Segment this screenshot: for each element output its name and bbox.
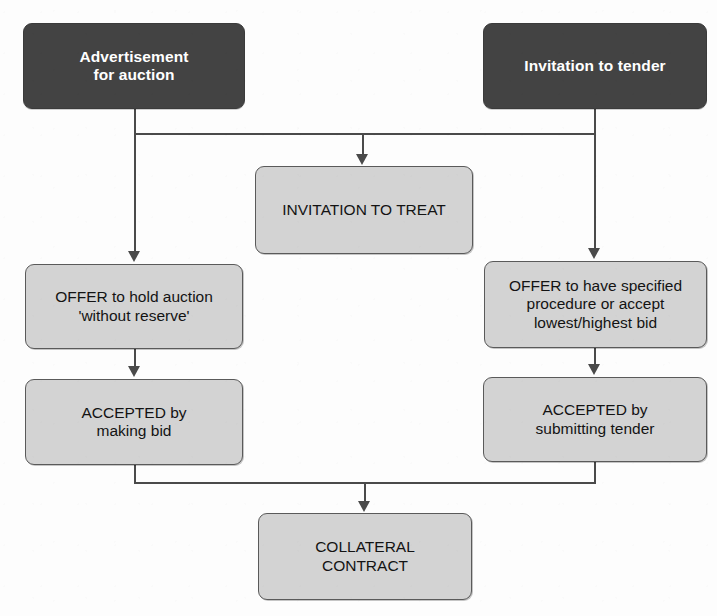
node-invitation-to-tender[interactable]: Invitation to tender	[483, 23, 707, 109]
connector-bus-to-collateral	[364, 482, 366, 503]
node-label: Advertisement for auction	[72, 48, 197, 85]
arrowhead-offer-to-hold-auction	[128, 251, 140, 262]
arrowhead-accepted-by-making-bid	[128, 366, 140, 377]
arrowhead-collateral-contract	[358, 501, 370, 512]
node-label: COLLATERAL CONTRACT	[307, 538, 423, 575]
node-invitation-to-treat[interactable]: INVITATION TO TREAT	[255, 166, 473, 254]
node-offer-specified-procedure[interactable]: OFFER to have specified procedure or acc…	[484, 261, 707, 348]
node-accepted-by-making-bid[interactable]: ACCEPTED by making bid	[25, 379, 243, 465]
connector-advert-to-offer-auction	[134, 133, 136, 251]
node-advertisement-for-auction[interactable]: Advertisement for auction	[23, 23, 245, 109]
node-label: INVITATION TO TREAT	[274, 201, 454, 219]
connector-accepted-tender-down	[594, 462, 596, 484]
connector-bus-to-invitation-to-treat	[362, 133, 364, 156]
connector-advert-down-to-junction	[134, 109, 136, 135]
arrowhead-offer-specified-procedure	[588, 248, 600, 259]
node-accepted-by-submitting-tender[interactable]: ACCEPTED by submitting tender	[483, 377, 707, 462]
arrowhead-invitation-to-treat	[356, 154, 368, 165]
connector-tender-down-to-junction	[594, 109, 596, 135]
connector-top-bus	[134, 133, 596, 135]
node-label: ACCEPTED by submitting tender	[528, 401, 663, 438]
node-offer-to-hold-auction[interactable]: OFFER to hold auction 'without reserve'	[25, 264, 243, 349]
node-label: OFFER to have specified procedure or acc…	[501, 277, 690, 332]
node-collateral-contract[interactable]: COLLATERAL CONTRACT	[258, 513, 472, 600]
node-label: OFFER to hold auction 'without reserve'	[47, 288, 221, 325]
flowchart-canvas: Advertisement for auction Invitation to …	[0, 0, 717, 616]
connector-tender-to-offer-specified	[594, 133, 596, 248]
arrowhead-accepted-by-submitting-tender	[588, 364, 600, 375]
node-label: Invitation to tender	[516, 57, 674, 75]
node-label: ACCEPTED by making bid	[73, 404, 194, 441]
